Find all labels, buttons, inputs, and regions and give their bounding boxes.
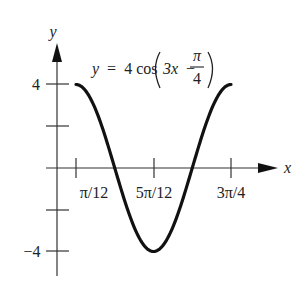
eq-coef: 4 [124,60,132,77]
eq-equals: = [107,60,116,77]
x-axis-label: x [283,159,291,176]
y-tick-label-4: 4 [32,76,40,93]
x-axis-arrow-icon [258,163,278,173]
svg-text:y = 4 cos: y = 4 cos [90,60,157,78]
equation-label: y = 4 cos 3x − π 4 [90,47,213,88]
eq-frac-num: π [193,47,202,64]
x-tick-label-3pi4: 3π/4 [217,184,246,201]
eq-func: cos [136,60,157,77]
y-axis-arrow-icon [52,43,62,62]
cosine-graph: y x 4 −4 π/12 5π/12 3π/4 y = 4 cos 3x − … [0,0,301,296]
x-tick-label-5pi12: 5π/12 [136,184,173,201]
eq-frac-den: 4 [193,70,201,87]
x-tick-label-pi12: π/12 [80,184,109,201]
eq-lhs: y [90,60,100,78]
right-paren [208,52,213,88]
y-tick-label-neg4: −4 [23,243,40,260]
eq-arg: 3x [162,60,178,77]
svg-text:3x −: 3x − [162,60,195,77]
y-axis-label: y [47,23,57,41]
